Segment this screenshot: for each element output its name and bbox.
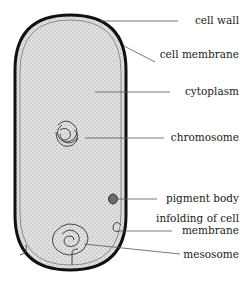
pigment-body: [109, 194, 118, 204]
label-chromosome: chromosome: [171, 132, 239, 143]
label-mesosome: mesosome: [183, 249, 239, 260]
label-cytoplasm: cytoplasm: [185, 86, 239, 97]
label-infolding-line2: membrane: [182, 225, 239, 236]
label-cell-membrane: cell membrane: [160, 49, 239, 60]
label-pigment-body: pigment body: [166, 193, 239, 204]
label-cell-wall: cell wall: [195, 15, 239, 26]
label-infolding-line1: infolding of cell: [156, 213, 239, 224]
